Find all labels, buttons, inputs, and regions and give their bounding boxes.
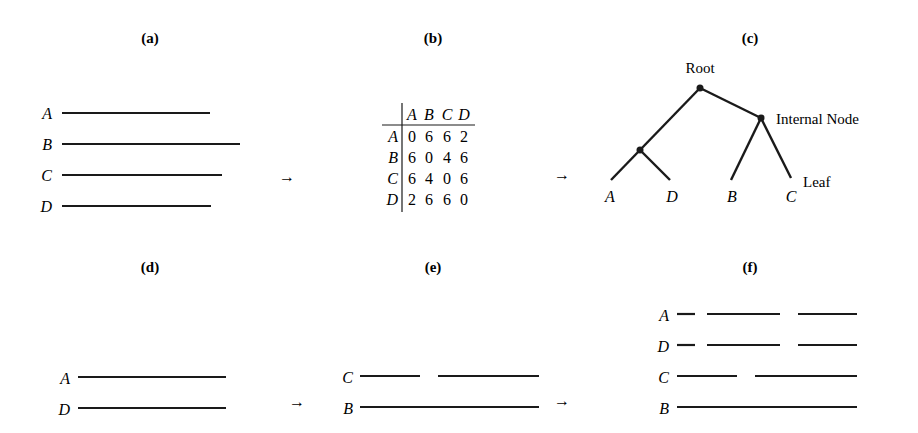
figure-canvas: (a) (b) (c) (d) (e) (f) A B C D → → → → … bbox=[0, 0, 918, 433]
matrix-cell: 4 bbox=[443, 149, 451, 166]
internal-node bbox=[758, 115, 765, 122]
sequence-label: A bbox=[41, 105, 52, 122]
sequence-label: C bbox=[342, 369, 353, 386]
panel-f-title: (f) bbox=[743, 259, 758, 276]
matrix-row-label: B bbox=[388, 149, 398, 166]
root-node bbox=[697, 85, 704, 92]
sequence-label: D bbox=[39, 198, 52, 215]
matrix-row-label: A bbox=[387, 128, 398, 145]
matrix-header: D bbox=[457, 106, 470, 123]
panel-d-title: (d) bbox=[141, 259, 159, 276]
root-label: Root bbox=[685, 60, 715, 76]
panel-a-sequences bbox=[62, 113, 240, 206]
tree-edge bbox=[640, 150, 670, 180]
matrix-cell: 6 bbox=[425, 128, 433, 145]
distance-matrix: A B C D A 0 6 6 2 B 6 0 4 6 C 6 4 0 6 D … bbox=[382, 103, 475, 212]
matrix-cell: 2 bbox=[408, 191, 416, 208]
tree-edge bbox=[731, 118, 761, 180]
tree-edge bbox=[700, 88, 761, 118]
panel-d-alignment bbox=[78, 377, 226, 408]
sequence-label: D bbox=[656, 338, 669, 355]
tree-leaf-name: A bbox=[604, 188, 615, 205]
matrix-cell: 6 bbox=[460, 170, 468, 187]
sequence-label: B bbox=[659, 400, 669, 417]
sequence-label: B bbox=[42, 136, 52, 153]
matrix-cell: 6 bbox=[408, 170, 416, 187]
arrow-icon: → bbox=[279, 168, 295, 185]
tree-edge bbox=[611, 150, 640, 180]
panel-f-alignment bbox=[677, 314, 857, 407]
matrix-cell: 6 bbox=[443, 128, 451, 145]
panel-e-alignment bbox=[360, 376, 539, 407]
matrix-cell: 0 bbox=[443, 170, 451, 187]
arrow-icon: → bbox=[554, 392, 570, 409]
matrix-cell: 4 bbox=[425, 170, 433, 187]
sequence-label: A bbox=[658, 307, 669, 324]
arrow-icon: → bbox=[554, 166, 570, 183]
sequence-label: B bbox=[343, 400, 353, 417]
panel-e-title: (e) bbox=[425, 259, 442, 276]
matrix-header: C bbox=[442, 106, 453, 123]
sequence-label: A bbox=[59, 370, 70, 387]
panel-c-title: (c) bbox=[742, 30, 759, 47]
matrix-cell: 0 bbox=[460, 191, 468, 208]
matrix-row-label: C bbox=[387, 170, 398, 187]
matrix-cell: 2 bbox=[460, 128, 468, 145]
guide-tree bbox=[611, 88, 791, 180]
tree-edge bbox=[640, 88, 700, 150]
sequence-label: C bbox=[658, 369, 669, 386]
sequence-label: C bbox=[41, 167, 52, 184]
arrow-icon: → bbox=[289, 393, 305, 410]
matrix-cell: 6 bbox=[408, 149, 416, 166]
tree-leaf-name: B bbox=[727, 188, 737, 205]
matrix-header: A bbox=[406, 106, 417, 123]
matrix-row-label: D bbox=[385, 191, 398, 208]
matrix-cell: 6 bbox=[460, 149, 468, 166]
sequence-label: D bbox=[57, 401, 70, 418]
matrix-cell: 0 bbox=[408, 128, 416, 145]
matrix-header: B bbox=[424, 106, 434, 123]
internal-node-label: Internal Node bbox=[776, 111, 859, 127]
tree-leaf-name: D bbox=[665, 188, 678, 205]
matrix-cell: 6 bbox=[425, 191, 433, 208]
matrix-cell: 0 bbox=[425, 149, 433, 166]
leaf-label: Leaf bbox=[803, 174, 830, 190]
matrix-cell: 6 bbox=[443, 191, 451, 208]
tree-edge bbox=[761, 118, 791, 178]
internal-node bbox=[637, 147, 644, 154]
panel-b-title: (b) bbox=[424, 30, 442, 47]
panel-a-title: (a) bbox=[141, 30, 159, 47]
tree-leaf-name: C bbox=[786, 188, 797, 205]
